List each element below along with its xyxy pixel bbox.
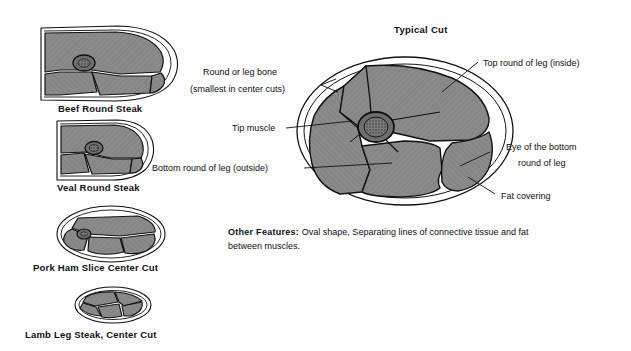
- specimen-lamb-leg-steak-center-cut: [75, 287, 151, 323]
- caption-pork-ham-slice-center-cut: Pork Ham Slice Center Cut: [33, 263, 158, 274]
- caption-lamb-leg-steak-center-cut: Lamb Leg Steak, Center Cut: [25, 330, 157, 341]
- typical-cut-diagram: [297, 57, 513, 205]
- other-features-heading: Other Features:: [228, 227, 302, 237]
- callout-fat-covering: Fat covering: [501, 190, 551, 203]
- callout-eye-of-bottom-round-line2: round of leg: [518, 157, 566, 170]
- round-steak-identification-figure: Typical Cut Beef Round Steak Veal Round …: [0, 0, 631, 351]
- callout-top-round-of-leg-inside: Top round of leg (inside): [483, 57, 580, 70]
- figure-illustration: [0, 0, 631, 351]
- callout-bottom-round-of-leg-outside: Bottom round of leg (outside): [152, 162, 268, 175]
- typical-cut-title: Typical Cut: [394, 24, 448, 35]
- caption-beef-round-steak: Beef Round Steak: [58, 104, 142, 115]
- specimen-beef-round-steak: [41, 26, 178, 101]
- specimen-veal-round-steak: [57, 120, 154, 180]
- callout-tip-muscle: Tip muscle: [232, 122, 275, 135]
- specimen-pork-ham-slice-center-cut: [57, 206, 165, 262]
- other-features-note: Other Features: Oval shape, Separating l…: [228, 226, 558, 254]
- caption-veal-round-steak: Veal Round Steak: [57, 183, 140, 194]
- callout-round-or-leg-bone-line2: (smallest in center cuts): [190, 83, 285, 96]
- callout-round-or-leg-bone-line1: Round or leg bone: [203, 66, 277, 79]
- callout-eye-of-bottom-round-line1: Eye of the bottom: [506, 141, 577, 154]
